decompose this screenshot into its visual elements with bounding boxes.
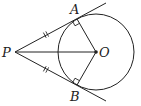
label-p: P	[1, 45, 11, 60]
tangent-line-a	[15, 3, 106, 52]
label-o: O	[99, 45, 110, 60]
center-dot	[94, 50, 98, 54]
radius-ob	[77, 52, 96, 85]
tangent-diagram: P O A B	[0, 0, 141, 106]
tangent-line-b	[15, 52, 106, 101]
label-a: A	[69, 2, 79, 17]
radius-oa	[77, 19, 96, 52]
label-b: B	[69, 89, 80, 104]
